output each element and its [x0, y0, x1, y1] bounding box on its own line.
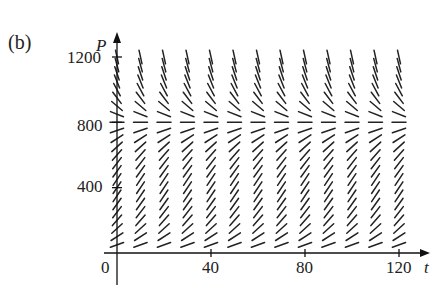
slope-segment: [251, 243, 264, 248]
slope-segment: [370, 233, 382, 241]
slope-segment: [323, 135, 335, 143]
slope-segment: [345, 243, 358, 248]
slope-segment: [393, 135, 405, 143]
slope-segment: [182, 135, 194, 143]
y-tick-label-1200: 1200: [67, 49, 101, 66]
x-axis-arrow-icon: [420, 249, 430, 257]
slope-segment: [205, 135, 217, 143]
slope-segment: [134, 112, 147, 117]
slope-segment: [134, 128, 147, 133]
slope-segment: [158, 233, 170, 241]
slope-segment: [158, 135, 170, 143]
slope-segment: [205, 112, 218, 117]
panel-label: (b): [8, 32, 31, 52]
slope-segment: [205, 233, 217, 241]
slope-segment: [275, 112, 288, 117]
slope-segment: [299, 135, 311, 143]
slope-segment: [298, 243, 311, 248]
slope-segment: [299, 112, 312, 117]
slope-segment: [135, 135, 147, 143]
x-tick-label-0: 0: [101, 259, 110, 276]
slope-segment: [323, 233, 335, 241]
slope-segment: [157, 128, 170, 133]
slope-segment: [369, 243, 382, 248]
slope-segment: [369, 112, 382, 117]
slope-segment: [275, 243, 288, 248]
slope-segment: [276, 233, 288, 241]
slope-segment: [369, 128, 382, 133]
axes: [104, 32, 430, 285]
slope-segment: [204, 128, 217, 133]
slope-segment: [228, 128, 241, 133]
slope-segment: [346, 112, 359, 117]
x-tick-label-80: 80: [296, 259, 313, 276]
slope-segment: [392, 128, 405, 133]
slope-segment: [181, 243, 194, 248]
slope-segment: [299, 233, 311, 241]
y-tick-label-400: 400: [77, 178, 103, 195]
slope-segments: [110, 50, 406, 247]
slope-segment: [229, 233, 241, 241]
x-tick-label-40: 40: [202, 259, 219, 276]
slope-segment: [393, 233, 405, 241]
direction-field-plot: [0, 0, 446, 300]
slope-segment: [157, 243, 170, 248]
x-tick-label-120: 120: [386, 259, 412, 276]
slope-segment: [275, 128, 288, 133]
slope-segment: [252, 112, 265, 117]
slope-segment: [322, 128, 335, 133]
slope-segment: [322, 112, 335, 117]
slope-segment: [204, 243, 217, 248]
slope-segment: [346, 135, 358, 143]
slope-segment: [228, 243, 241, 248]
slope-segment: [252, 135, 264, 143]
x-axis-label: t: [424, 259, 429, 276]
slope-segment: [251, 128, 264, 133]
slope-segment: [135, 233, 147, 241]
slope-segment: [252, 233, 264, 241]
slope-segment: [392, 243, 405, 248]
slope-segment: [345, 128, 358, 133]
slope-segment: [158, 112, 171, 117]
y-axis-arrow-icon: [113, 32, 121, 43]
slope-segment: [393, 112, 406, 117]
slope-segment: [322, 243, 335, 248]
slope-segment: [229, 135, 241, 143]
slope-segment: [370, 135, 382, 143]
slope-segment: [346, 233, 358, 241]
slope-segment: [181, 128, 194, 133]
slope-segment: [276, 135, 288, 143]
slope-segment: [298, 128, 311, 133]
slope-segment: [181, 112, 194, 117]
y-tick-label-800: 800: [77, 117, 103, 134]
slope-segment: [182, 233, 194, 241]
slope-segment: [228, 112, 241, 117]
slope-segment: [134, 243, 147, 248]
